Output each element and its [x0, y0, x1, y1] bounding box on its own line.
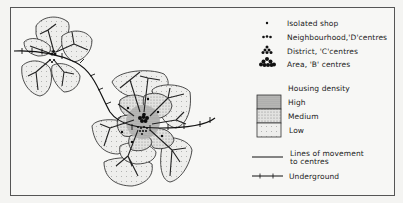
dot-row-icon	[262, 35, 272, 38]
density-swatches	[257, 95, 281, 137]
legend-label-district: District, 'C'centres	[287, 47, 358, 56]
dot-cluster-icon	[259, 57, 276, 67]
legend-density-high: High	[288, 98, 306, 107]
dot-triangle-icon	[262, 46, 273, 55]
single-dot-icon	[266, 22, 268, 24]
tick-line-icon	[252, 174, 283, 179]
legend-label-isolated-shop: Isolated shop	[287, 19, 338, 28]
legend-density-medium: Medium	[288, 112, 319, 121]
legend-density-low: Low	[289, 126, 304, 135]
legend-underground: Underground	[289, 172, 339, 181]
legend-density-title: Housing density	[288, 84, 350, 93]
low-density-swatch	[257, 123, 281, 137]
legend-lines-of-movement-2: to centres	[290, 157, 329, 166]
legend-label-area: Area, 'B' centres	[287, 60, 350, 69]
legend-label-neighbourhood: Neighbourhood,'D'centres	[287, 33, 387, 42]
medium-density-swatch	[257, 109, 281, 123]
legend-graphics	[0, 0, 403, 203]
high-density-swatch	[257, 95, 281, 109]
